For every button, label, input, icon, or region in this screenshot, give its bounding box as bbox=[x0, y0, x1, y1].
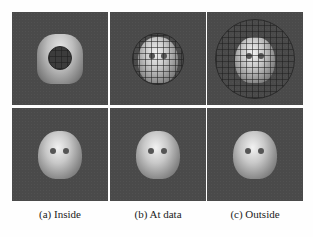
head-model bbox=[35, 34, 85, 84]
wireframe-sphere bbox=[132, 33, 184, 85]
caption-b: (b) At data bbox=[110, 208, 206, 220]
head-model bbox=[215, 19, 295, 99]
head-model bbox=[38, 131, 82, 179]
wireframe-sphere bbox=[48, 46, 72, 70]
panel-a-top-inside-sphere bbox=[12, 12, 108, 105]
panel-c-bottom-reconstruction bbox=[207, 108, 303, 201]
wireframe-sphere bbox=[215, 19, 295, 99]
head-model bbox=[233, 131, 277, 179]
caption-a: (a) Inside bbox=[12, 208, 108, 220]
panel-b-bottom-reconstruction bbox=[110, 108, 206, 201]
panel-c-top-outside-sphere bbox=[207, 12, 303, 105]
head-model bbox=[136, 131, 180, 179]
panel-a-bottom-reconstruction bbox=[12, 108, 108, 201]
caption-c: (c) Outside bbox=[207, 208, 303, 220]
panel-b-top-at-data-sphere bbox=[110, 12, 206, 105]
head-model bbox=[132, 33, 184, 85]
